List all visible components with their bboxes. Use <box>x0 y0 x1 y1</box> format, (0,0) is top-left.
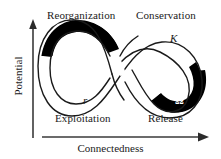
right-arrow-icon <box>198 133 209 142</box>
adaptive-cycle-svg <box>0 0 221 159</box>
phase-symbol-omega: Ω <box>175 95 184 106</box>
x-axis <box>42 133 209 142</box>
quadrant-label-reorganization: Reorganization <box>47 9 115 21</box>
phase-symbol-kappa: K <box>170 33 177 44</box>
up-arrow-icon <box>29 19 37 29</box>
quadrant-label-release: Release <box>148 112 183 124</box>
phase-symbol-r: r <box>83 95 87 106</box>
phase-symbol-alpha: α <box>84 33 90 44</box>
quadrant-label-exploitation: Exploitation <box>55 112 111 124</box>
y-axis-label: Potential <box>12 41 24 111</box>
y-axis <box>29 19 37 138</box>
x-axis-label: Connectedness <box>0 142 221 154</box>
adaptive-cycle-figure: Reorganization Conservation Exploitation… <box>0 0 221 159</box>
quadrant-label-conservation: Conservation <box>136 9 196 21</box>
lemniscate-inner-left-curve <box>50 31 110 104</box>
